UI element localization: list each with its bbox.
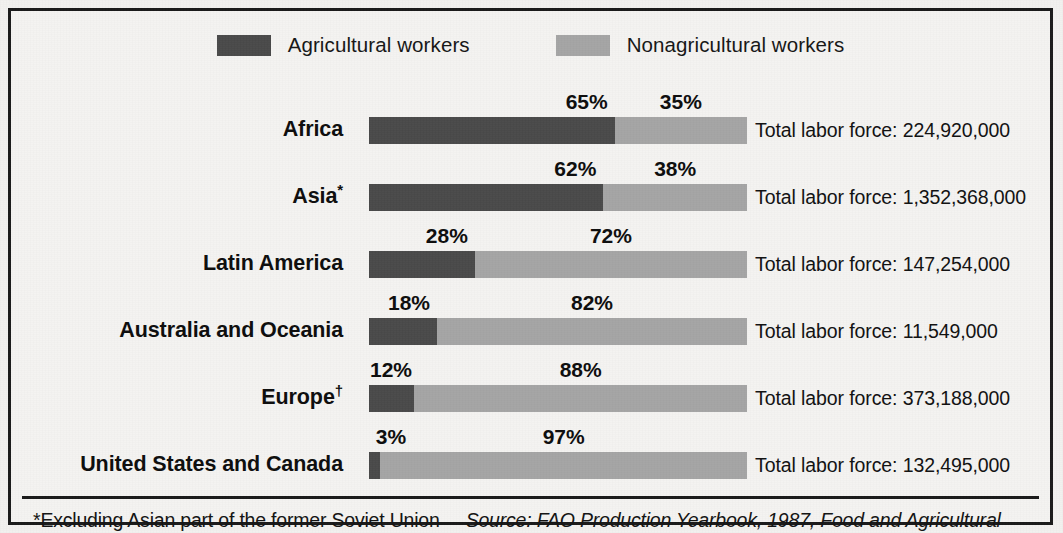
chart-row: Latin America 28% 72% Total labor force:…: [11, 229, 1050, 296]
total-labor-force-label: Total labor force: 11,549,000: [755, 318, 998, 345]
chart-rows: Africa 65% 35% Total labor force: 224,92…: [11, 95, 1050, 497]
total-labor-force-label: Total labor force: 373,188,000: [755, 385, 1010, 412]
pct-label-nonagricultural: 88%: [560, 358, 602, 382]
row-label: Australia and Oceania: [119, 318, 343, 343]
stacked-bar: [369, 452, 747, 479]
pct-label-agricultural: 28%: [426, 224, 468, 248]
pct-label-agricultural: 18%: [388, 291, 430, 315]
chart-row: Australia and Oceania 18% 82% Total labo…: [11, 296, 1050, 363]
chart-row: United States and Canada 3% 97% Total la…: [11, 430, 1050, 497]
pct-label-nonagricultural: 38%: [654, 157, 696, 181]
row-label-text: Europe: [261, 385, 334, 409]
row-label-text: United States and Canada: [80, 452, 343, 476]
source-citation: Source: FAO Production Yearbook, 1987, F…: [466, 509, 1001, 532]
row-label: Africa: [283, 117, 343, 142]
row-label-text: Asia: [292, 184, 337, 208]
bar-segment-nonagricultural: [603, 184, 747, 211]
bar-segment-agricultural: [369, 452, 380, 479]
row-label: United States and Canada: [80, 452, 343, 477]
row-label-text: Latin America: [203, 251, 343, 275]
legend-swatch-nonagricultural-icon: [556, 35, 610, 56]
row-label-footnote-mark: †: [335, 382, 343, 399]
chart-footer: *Excluding Asian part of the former Sovi…: [33, 509, 1036, 532]
row-label-text: Africa: [283, 117, 343, 141]
pct-label-agricultural: 65%: [566, 90, 608, 114]
stacked-bar: [369, 385, 747, 412]
pct-label-agricultural: 62%: [554, 157, 596, 181]
bar-segment-agricultural: [369, 251, 475, 278]
row-label-footnote-mark: *: [337, 181, 343, 198]
bar-segment-nonagricultural: [437, 318, 747, 345]
bar-segment-nonagricultural: [615, 117, 747, 144]
legend-label-nonagricultural: Nonagricultural workers: [627, 33, 845, 57]
total-labor-force-label: Total labor force: 224,920,000: [755, 117, 1010, 144]
bar-segment-nonagricultural: [380, 452, 747, 479]
chart-row: Asia* 62% 38% Total labor force: 1,352,3…: [11, 162, 1050, 229]
bar-segment-agricultural: [369, 385, 414, 412]
pct-label-nonagricultural: 82%: [571, 291, 613, 315]
pct-label-agricultural: 12%: [370, 358, 412, 382]
chart-legend: Agricultural workers Nonagricultural wor…: [11, 33, 1050, 57]
chart-row: Africa 65% 35% Total labor force: 224,92…: [11, 95, 1050, 162]
footer-divider: [22, 496, 1039, 499]
legend-swatch-agricultural-icon: [217, 35, 271, 56]
total-labor-force-label: Total labor force: 1,352,368,000: [755, 184, 1026, 211]
chart-frame: Agricultural workers Nonagricultural wor…: [8, 8, 1053, 525]
labor-force-chart-figure: Agricultural workers Nonagricultural wor…: [0, 0, 1063, 533]
row-label: Europe†: [261, 385, 343, 410]
stacked-bar: [369, 251, 747, 278]
pct-label-nonagricultural: 97%: [543, 425, 585, 449]
total-labor-force-label: Total labor force: 132,495,000: [755, 452, 1010, 479]
stacked-bar: [369, 117, 747, 144]
bar-segment-agricultural: [369, 318, 437, 345]
row-label-text: Australia and Oceania: [119, 318, 343, 342]
stacked-bar: [369, 184, 747, 211]
bar-segment-nonagricultural: [414, 385, 747, 412]
pct-label-nonagricultural: 72%: [590, 224, 632, 248]
row-label: Latin America: [203, 251, 343, 276]
bar-segment-agricultural: [369, 117, 615, 144]
footnote-text: *Excluding Asian part of the former Sovi…: [33, 509, 440, 532]
chart-row: Europe† 12% 88% Total labor force: 373,1…: [11, 363, 1050, 430]
legend-entry-agricultural: Agricultural workers: [217, 33, 470, 57]
row-label: Asia*: [292, 184, 343, 209]
bar-segment-agricultural: [369, 184, 603, 211]
stacked-bar: [369, 318, 747, 345]
bar-segment-nonagricultural: [475, 251, 747, 278]
total-labor-force-label: Total labor force: 147,254,000: [755, 251, 1010, 278]
legend-label-agricultural: Agricultural workers: [288, 33, 470, 57]
legend-entry-nonagricultural: Nonagricultural workers: [556, 33, 845, 57]
pct-label-nonagricultural: 35%: [660, 90, 702, 114]
pct-label-agricultural: 3%: [376, 425, 406, 449]
